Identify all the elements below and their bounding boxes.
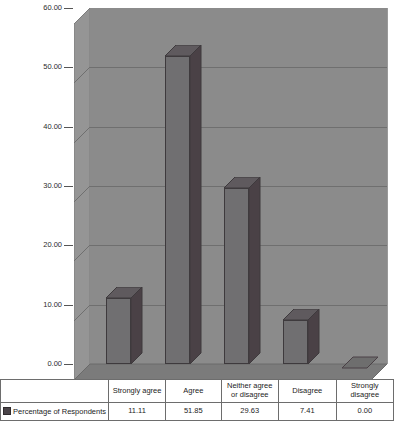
bar-neither-agree-or-disagree [224,188,249,364]
table-header-strongly-agree: Strongly agree [108,380,165,403]
table-header-disagree: Disagree [278,380,336,403]
y-axis-tick-mark [64,305,73,306]
bar-side-face [131,287,142,353]
y-axis-tick: 40.00 [14,127,74,128]
y-axis-tick: 10.00 [14,305,74,306]
table-header-strongly-disagree: Strongly disagree [336,380,393,403]
y-axis-tick-label: 20.00 [43,240,62,249]
bar-front-face [106,298,131,364]
y-axis-tick-label: 40.00 [43,122,62,131]
bar-top-face [224,177,249,188]
y-axis-tick-label: 50.00 [43,62,62,71]
plot-area [74,8,387,380]
gridline [90,127,387,128]
gridline-side [74,186,91,203]
y-axis-tick-mark [64,245,73,246]
y-axis-tick-mark [64,8,73,9]
table-header-agree: Agree [166,380,221,403]
table-value-row: Percentage of Respondents 11.11 51.85 29… [1,403,394,421]
table-header-neither-agree-or-disagree: Neither agree or disagree [221,380,278,403]
bar-front-face [165,56,190,364]
y-axis-tick-label: 60.00 [43,3,62,12]
bar-front-face [224,188,249,364]
y-axis-tick-label: 30.00 [43,181,62,190]
y-axis-tick: 0.00 [14,364,74,365]
data-table: Strongly agree Agree Neither agree or di… [0,379,394,421]
bar-top-face [165,45,190,56]
gridline-side [74,127,91,144]
bar-agree [165,56,190,364]
table-value-strongly-disagree: 0.00 [336,403,393,421]
table-value-strongly-agree: 11.11 [108,403,165,421]
bar-front-face [283,320,308,364]
bar-strongly-agree [106,298,131,364]
gridline-side [74,67,91,84]
gridline [90,67,387,68]
table-value-neither-agree-or-disagree: 29.63 [221,403,278,421]
y-axis-tick-mark [64,67,73,68]
y-axis-tick-label: 0.00 [47,359,62,368]
y-axis-tick-mark [64,127,73,128]
bar-strongly-disagree [342,356,380,370]
y-axis: 60.00 50.00 40.00 30.00 20.00 10.00 0.00 [14,0,74,380]
table-value-agree: 51.85 [166,403,221,421]
bar-side-face [190,45,201,353]
bar-side-face [308,309,319,353]
legend-entry: Percentage of Respondents [1,403,109,421]
y-axis-tick: 20.00 [14,245,74,246]
table-value-disagree: 7.41 [278,403,336,421]
bar-top-face [283,309,308,320]
legend-swatch-icon [3,407,11,415]
bar-chart: 60.00 50.00 40.00 30.00 20.00 10.00 0.00 [0,0,395,380]
y-axis-tick-label: 10.00 [43,300,62,309]
table-header-row: Strongly agree Agree Neither agree or di… [1,380,394,403]
y-axis-tick: 60.00 [14,8,74,9]
gridline-side [74,305,91,322]
bar-side-face [249,177,260,353]
bar-top-face [106,287,131,298]
y-axis-tick: 50.00 [14,67,74,68]
table-corner-cell [1,380,109,403]
gridline-side [74,245,91,262]
bar-disagree [283,320,308,364]
y-axis-tick-mark [64,186,73,187]
y-axis-tick: 30.00 [14,186,74,187]
legend-label: Percentage of Respondents [13,407,106,416]
y-axis-tick-mark [64,364,73,365]
